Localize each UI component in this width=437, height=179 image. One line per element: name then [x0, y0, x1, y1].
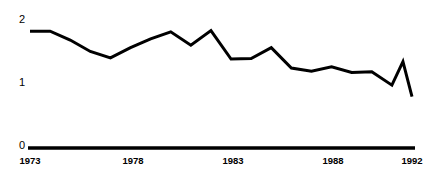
plot-area	[0, 0, 437, 179]
data-series-line	[30, 31, 412, 97]
line-chart: 2 1 0 1973 1978 1983 1988 1992	[0, 0, 437, 179]
x-axis-tick-label-1978: 1978	[113, 156, 153, 166]
x-axis-tick-label-1988: 1988	[313, 156, 353, 166]
x-axis-tick-label-1973: 1973	[10, 156, 50, 166]
x-axis-tick-label-1992: 1992	[392, 156, 432, 166]
x-axis-tick-label-1983: 1983	[213, 156, 253, 166]
